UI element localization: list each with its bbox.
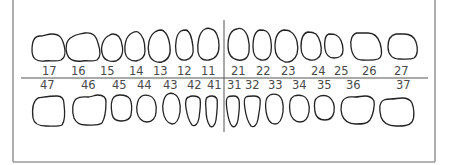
tooth-44[interactable] [137,95,157,122]
tooth-34[interactable] [290,95,310,122]
label-27: 27 [394,64,409,78]
label-17: 17 [42,64,57,78]
label-36: 36 [346,78,361,92]
tooth-32[interactable] [244,96,260,127]
tooth-17[interactable] [32,34,65,61]
label-33: 33 [268,78,283,92]
tooth-37[interactable] [380,98,414,126]
tooth-25[interactable] [325,34,343,58]
label-44: 44 [137,78,152,92]
tooth-26[interactable] [351,33,382,60]
label-21: 21 [231,64,246,78]
label-41: 41 [207,78,222,92]
label-32: 32 [245,78,260,92]
label-31: 31 [227,78,242,92]
label-15: 15 [100,64,115,78]
tooth-27[interactable] [388,34,417,59]
tooth-33[interactable] [266,94,284,124]
label-37: 37 [396,78,411,92]
tooth-11[interactable] [198,28,219,60]
label-16: 16 [71,64,86,78]
tooth-21[interactable] [228,28,249,60]
tooth-15[interactable] [102,34,123,61]
label-13: 13 [153,64,168,78]
tooth-43[interactable] [163,93,181,124]
label-45: 45 [112,78,127,92]
dental-chart: 17 16 15 14 13 12 11 21 22 23 24 25 26 2… [0,0,451,165]
tooth-24[interactable] [301,32,321,60]
tooth-16[interactable] [66,33,100,61]
label-34: 34 [292,78,307,92]
tooth-42[interactable] [186,96,201,126]
label-23: 23 [281,64,296,78]
label-43: 43 [163,78,178,92]
tooth-46[interactable] [73,95,106,125]
label-14: 14 [129,64,144,78]
tooth-35[interactable] [314,96,334,121]
tooth-31[interactable] [226,96,239,127]
tooth-36[interactable] [341,96,374,124]
tooth-22[interactable] [253,30,271,60]
label-11: 11 [201,64,216,78]
label-22: 22 [256,64,271,78]
tooth-41[interactable] [206,96,218,127]
label-12: 12 [177,64,192,78]
label-26: 26 [362,64,377,78]
tooth-13[interactable] [148,30,170,62]
label-46: 46 [81,78,96,92]
label-24: 24 [311,64,326,78]
label-35: 35 [317,78,332,92]
tooth-12[interactable] [176,30,194,60]
tooth-23[interactable] [275,30,298,62]
label-47: 47 [40,78,55,92]
tooth-47[interactable] [33,96,65,126]
label-25: 25 [334,64,349,78]
tooth-14[interactable] [125,32,145,61]
label-42: 42 [187,78,202,92]
tooth-45[interactable] [111,95,131,121]
